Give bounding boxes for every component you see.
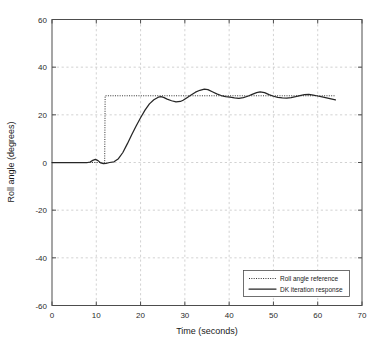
y-tick-label: 60 [38, 16, 47, 25]
y-tick-label: -40 [35, 254, 47, 263]
chart-figure: -60-40-200204060 010203040506070 Time (s… [0, 0, 378, 343]
data-series [52, 89, 335, 164]
y-tick-label: -20 [35, 206, 47, 215]
y-axis-title: Roll angle (degrees) [6, 121, 16, 202]
series-roll-angle-reference [52, 96, 335, 163]
y-tick-label: -60 [35, 302, 47, 311]
x-axis-tick-labels: 010203040506070 [50, 311, 367, 320]
y-tick-label: 0 [43, 159, 48, 168]
x-tick-label: 60 [313, 311, 322, 320]
x-tick-label: 70 [358, 311, 367, 320]
y-axis-tick-labels: -60-40-200204060 [35, 16, 47, 311]
legend-label-reference: Roll angle reference [280, 275, 339, 283]
x-tick-label: 20 [136, 311, 145, 320]
y-tick-label: 20 [38, 111, 47, 120]
gridlines [52, 20, 362, 306]
x-tick-label: 10 [92, 311, 101, 320]
legend-label-response: DK iteration response [280, 286, 343, 294]
roll-angle-line-chart: -60-40-200204060 010203040506070 Time (s… [0, 0, 378, 343]
x-axis-title: Time (seconds) [176, 326, 238, 336]
x-tick-label: 0 [50, 311, 55, 320]
y-tick-label: 40 [38, 63, 47, 72]
x-tick-label: 40 [225, 311, 234, 320]
x-tick-label: 50 [269, 311, 278, 320]
x-tick-label: 30 [180, 311, 189, 320]
chart-legend: Roll angle reference DK iteration respon… [244, 271, 350, 297]
series-dk-iteration-response [52, 89, 335, 164]
